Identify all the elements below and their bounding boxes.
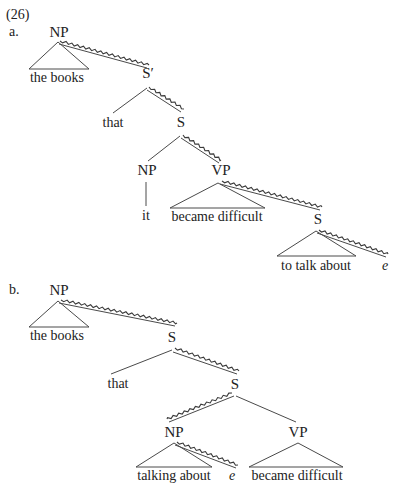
tree-b-branch-that [111, 350, 172, 374]
syntax-tree-figure: (26) a. NP the books S′ that S NP VP [0, 0, 397, 488]
tree-b-root-leaf: the books [30, 328, 84, 343]
tree-b-path-np-s0 [59, 300, 177, 326]
tree-b-vp-leaf: became difficult [251, 468, 342, 483]
tree-a-path-s2-gap [317, 230, 388, 257]
tree-a-s2: S [314, 211, 322, 227]
tree-a-gap: e [382, 258, 388, 273]
tree-a-root-np: NP [49, 24, 68, 40]
tree-a-path-s-vp [181, 135, 221, 163]
tree-a-branch-np [148, 136, 180, 161]
tree-a-vp-triangle [170, 183, 265, 208]
tree-a-vp-leaf: became difficult [171, 209, 262, 224]
tree-a-np: NP [137, 162, 156, 178]
tree-b-s0: S [168, 329, 176, 345]
tree-a-sbar: S′ [142, 65, 154, 81]
tree-b-np-leaf: talking about [137, 468, 211, 483]
tree-b-path-s1-np [167, 393, 234, 422]
tree-a-np-triangle [29, 42, 89, 69]
tree-b-path-s0-s1 [173, 348, 239, 374]
tree-b-gap: e [229, 468, 235, 483]
tree-a: a. NP the books S′ that S NP VP it [9, 24, 388, 273]
tree-b: b. NP the books S that S NP VP talking [9, 282, 343, 483]
tree-b-vp: VP [288, 424, 307, 440]
tree-a-s2-triangle [277, 231, 356, 256]
tree-a-label: a. [9, 24, 19, 39]
tree-b-s1: S [231, 376, 239, 392]
tree-a-root-leaf: the books [30, 70, 84, 85]
tree-a-s2-leaf: to talk about [281, 258, 351, 273]
tree-a-comp: that [103, 115, 124, 130]
example-number: (26) [6, 7, 30, 23]
tree-a-path-vp-s2 [220, 181, 322, 210]
tree-a-path-sbar-s [147, 87, 184, 112]
tree-b-branch-vp [236, 396, 296, 422]
tree-b-comp: that [108, 376, 129, 391]
tree-b-np: NP [164, 424, 183, 440]
tree-b-root-np: NP [49, 282, 68, 298]
tree-b-vp-triangle [249, 443, 343, 467]
tree-a-s1: S [177, 114, 185, 130]
tree-b-np-triangle [29, 301, 89, 327]
tree-a-np-leaf: it [142, 208, 150, 223]
tree-a-vp: VP [211, 162, 230, 178]
tree-a-branch-that [113, 88, 147, 113]
tree-b-label: b. [9, 282, 20, 297]
